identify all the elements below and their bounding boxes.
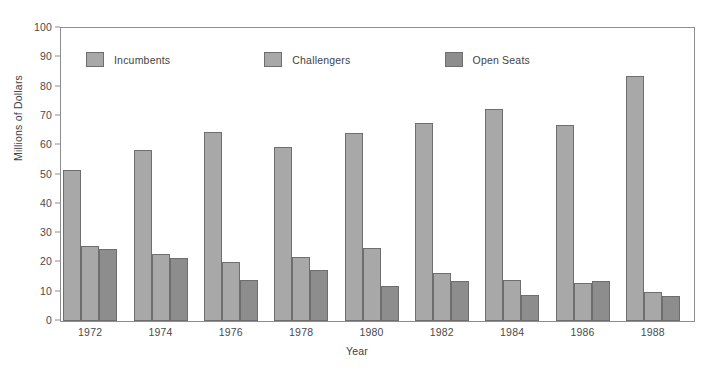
bar-incumbents-1988 — [626, 76, 644, 321]
bar-group-1978 — [274, 28, 328, 321]
bar-open-seats-1982 — [451, 281, 469, 321]
bar-open-seats-1972 — [99, 249, 117, 321]
bar-incumbents-1986 — [556, 125, 574, 321]
bar-challengers-1984 — [503, 280, 521, 321]
bar-open-seats-1984 — [521, 295, 539, 321]
legend-item-open-seats: Open Seats — [445, 52, 530, 67]
bar-challengers-1986 — [574, 283, 592, 321]
legend-label: Open Seats — [473, 54, 530, 66]
x-axis-tick-label: 1984 — [500, 326, 524, 338]
bar-challengers-1978 — [292, 257, 310, 321]
bar-challengers-1988 — [644, 292, 662, 321]
y-axis-tick-label: 70 — [40, 109, 52, 121]
x-axis-tick-label: 1972 — [78, 326, 102, 338]
bar-open-seats-1986 — [592, 281, 610, 321]
bar-challengers-1980 — [363, 248, 381, 321]
y-axis-tick-label: 100 — [34, 21, 52, 33]
legend-swatch-icon — [445, 52, 463, 67]
bar-group-1972 — [63, 28, 117, 321]
bar-open-seats-1980 — [381, 286, 399, 321]
legend-swatch-icon — [264, 52, 282, 67]
y-axis-tick-label: 30 — [40, 226, 52, 238]
y-axis-tick-label: 10 — [40, 285, 52, 297]
bar-chart: 0102030405060708090100 Millions of Dolla… — [0, 0, 714, 376]
x-axis-tick-label: 1986 — [570, 326, 594, 338]
legend-item-challengers: Challengers — [264, 52, 350, 67]
bar-open-seats-1988 — [662, 296, 680, 321]
legend-label: Incumbents — [114, 54, 170, 66]
bar-incumbents-1984 — [485, 109, 503, 321]
y-axis: 0102030405060708090100 — [0, 27, 60, 322]
bar-incumbents-1976 — [204, 132, 222, 321]
y-axis-tick-label: 60 — [40, 138, 52, 150]
bar-group-1988 — [626, 28, 680, 321]
x-axis-tick-label: 1982 — [430, 326, 454, 338]
chart-legend: IncumbentsChallengersOpen Seats — [86, 52, 530, 67]
bar-open-seats-1976 — [240, 280, 258, 321]
y-axis-tick-label: 20 — [40, 255, 52, 267]
x-axis-title: Year — [0, 345, 714, 357]
bar-challengers-1972 — [81, 246, 99, 321]
legend-label: Challengers — [292, 54, 350, 66]
bar-open-seats-1978 — [310, 270, 328, 321]
bar-group-1982 — [415, 28, 469, 321]
x-axis: 197219741976197819801982198419861988 — [61, 326, 694, 346]
bar-incumbents-1978 — [274, 147, 292, 321]
bar-incumbents-1974 — [134, 150, 152, 321]
bar-open-seats-1974 — [170, 258, 188, 321]
y-axis-tick-label: 80 — [40, 80, 52, 92]
bar-challengers-1982 — [433, 273, 451, 321]
x-axis-tick-label: 1974 — [148, 326, 172, 338]
bar-group-1976 — [204, 28, 258, 321]
y-axis-title: Millions of Dollars — [12, 38, 24, 198]
y-axis-tick-label: 50 — [40, 168, 52, 180]
y-axis-tick-label: 90 — [40, 50, 52, 62]
bar-group-1986 — [556, 28, 610, 321]
bar-incumbents-1980 — [345, 133, 363, 321]
x-axis-tick-label: 1976 — [219, 326, 243, 338]
bar-challengers-1976 — [222, 262, 240, 321]
bars-layer — [61, 28, 694, 321]
legend-item-incumbents: Incumbents — [86, 52, 170, 67]
x-axis-tick-label: 1988 — [641, 326, 665, 338]
bar-incumbents-1982 — [415, 123, 433, 321]
bar-incumbents-1972 — [63, 170, 81, 321]
bar-group-1980 — [345, 28, 399, 321]
legend-swatch-icon — [86, 52, 104, 67]
bar-group-1974 — [134, 28, 188, 321]
bar-challengers-1974 — [152, 254, 170, 321]
x-axis-tick-label: 1978 — [289, 326, 313, 338]
y-axis-tick-label: 0 — [46, 314, 52, 326]
x-axis-tick-label: 1980 — [359, 326, 383, 338]
y-axis-tick-label: 40 — [40, 197, 52, 209]
bar-group-1984 — [485, 28, 539, 321]
